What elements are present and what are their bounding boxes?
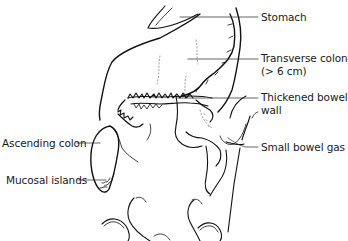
small-bowel-gas-leader bbox=[228, 138, 258, 147]
label-thickened-bowel-wall-line2: wall bbox=[261, 104, 281, 116]
ascending-colon-shape bbox=[91, 126, 138, 192]
descending-colon-shape bbox=[228, 96, 258, 232]
pelvic-loops-shape bbox=[102, 197, 222, 241]
label-transverse-colon-size: (> 6 cm) bbox=[261, 65, 307, 77]
label-thickened-bowel-wall: Thickened bowel bbox=[261, 91, 348, 103]
label-stomach: Stomach bbox=[261, 11, 307, 23]
small-bowel-shape bbox=[147, 96, 246, 196]
leader-lines bbox=[77, 17, 258, 180]
label-mucosal-islands: Mucosal islands bbox=[6, 174, 87, 186]
label-transverse-colon: Transverse colon bbox=[261, 52, 348, 64]
label-small-bowel-gas: Small bowel gas bbox=[261, 141, 345, 153]
label-ascending-colon: Ascending colon bbox=[2, 137, 86, 149]
